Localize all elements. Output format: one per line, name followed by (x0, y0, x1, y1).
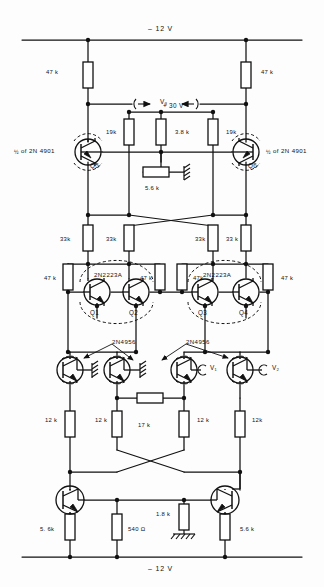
resistor-value-r-top-right: 47 k (261, 70, 273, 76)
resistor-value-r-19k-right: 19k (226, 130, 236, 136)
resistor-value-r-47k-b: 47 k (140, 276, 152, 282)
resistor-value-r-47k-c: 47k (193, 276, 203, 282)
resistor-value-r-12k-2: 12 k (95, 418, 107, 424)
half-of-left-text: of 2N 4901 (21, 147, 55, 154)
schematic-canvas (0, 0, 324, 587)
transistor-label-q1: Q1 (90, 310, 99, 316)
resistor-value-r-5k6-left: 5. 6k (40, 527, 54, 533)
device-label-right: ½ of 2N 4901 (266, 148, 307, 155)
resistor-bodies (63, 62, 273, 540)
fet-label-right: 2N4956 (186, 339, 210, 345)
v1-label: V₁ (210, 365, 217, 371)
resistor-value-r-5k6-emit: 5.6 k (145, 186, 159, 192)
transistor-label-q3: Q3 (198, 310, 207, 316)
transistor-label-q6: Q6 (248, 163, 257, 169)
gnd-5k6-node (184, 164, 190, 180)
fet-J1 (57, 356, 92, 384)
fet-J2 (104, 356, 140, 384)
resistor-value-r-47k-d: 47 k (281, 276, 293, 282)
resistor-value-r-12k-1: 12 k (45, 418, 57, 424)
transistor-label-q2: Q2 (129, 310, 138, 316)
resistor-value-r-12k-4: 12k (252, 418, 262, 424)
resistor-value-r-19k-left: 19k (106, 130, 116, 136)
device-label-left: ½ of 2N 4901 (14, 148, 55, 155)
transistor-label-q4: Q4 (239, 310, 248, 316)
resistor-value-r-top-left: 47 k (46, 70, 58, 76)
resistor-value-r-33k-2: 33k (106, 237, 116, 243)
gnd-fet1-node (92, 361, 98, 378)
transistor-label-q5: Q5 (90, 163, 99, 169)
v3-label: V₃ (160, 99, 167, 105)
half-of-right-text: of 2N 4901 (273, 147, 307, 154)
transistor-Q2 (122, 278, 149, 306)
resistor-value-r-33k-3: 33k (195, 237, 205, 243)
schematic-sheet: – 12 V – 12 V + 30 V V₃ V₁ V₂ ½ of 2N 49… (0, 0, 324, 587)
fet-J3 (171, 356, 206, 384)
resistor-value-r-5k6-right: 5.6 k (240, 527, 254, 533)
pair-label-right: 2N2223A (203, 272, 231, 278)
resistor-value-r-12k-3: 12 k (197, 418, 209, 424)
gnd-fet2-node (140, 361, 146, 378)
pair-label-left: 2N2223A (94, 272, 122, 278)
transistor-Q4 (232, 278, 259, 306)
rail-bottom-label: – 12 V (148, 565, 173, 572)
half-glyph-right: ½ (266, 150, 271, 155)
fet-label-left: 2N4956 (112, 339, 136, 345)
transistor-Q3 (191, 278, 218, 306)
rail-top-label: – 12 V (148, 25, 173, 32)
transistor-Q8 (210, 472, 240, 514)
resistor-value-r-1k8: 1.8 k (156, 512, 170, 518)
transistor-Q1 (83, 278, 110, 306)
wires-layer (22, 40, 302, 557)
v2-label: V₂ (272, 365, 279, 371)
resistor-value-r-47k-a: 47 k (44, 276, 56, 282)
gnd-1k8-node (171, 530, 195, 539)
resistor-value-r-33k-1: 33k (60, 237, 70, 243)
resistor-value-r-17k: 17 k (138, 423, 150, 429)
resistor-value-r-540: 540 Ω (128, 527, 145, 533)
resistor-value-r-33k-4: 33 k (226, 237, 238, 243)
fet-J4 (227, 356, 267, 384)
resistor-value-r-3k8: 3.8 k (175, 130, 189, 136)
half-glyph-left: ½ (14, 150, 19, 155)
